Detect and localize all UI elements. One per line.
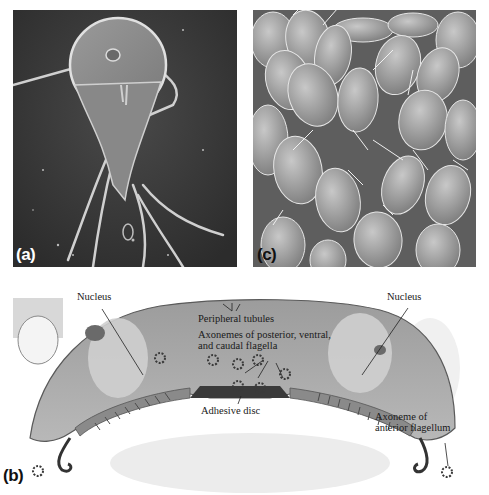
label-axoneme-anterior-1: Axoneme of: [375, 411, 427, 422]
label-axonemes-posterior: Axonemes of posterior, ventral,: [198, 329, 331, 340]
panel-label-a: (a): [16, 245, 35, 265]
panel-label-b: (b): [3, 466, 23, 486]
label-axoneme-anterior-2: anterior flagellum: [375, 422, 451, 433]
cross-section-tem-image: [0, 278, 489, 495]
label-nucleus-right: Nucleus: [387, 291, 421, 302]
panel-b-micrograph: Nucleus Nucleus Peripheral tubules Axone…: [0, 278, 489, 495]
panel-c-micrograph: (c): [253, 10, 476, 267]
panel-label-c: (c): [257, 245, 276, 265]
intestinal-surface-sem-image: [253, 10, 476, 267]
panel-a-micrograph: (a): [13, 10, 237, 267]
label-adhesive-disc: Adhesive disc: [201, 405, 260, 416]
label-peripheral-tubules: Peripheral tubules: [198, 313, 274, 324]
label-axonemes-caudal: and caudal flagella: [198, 340, 277, 351]
label-nucleus-left: Nucleus: [77, 291, 111, 302]
trophozoite-sem-image: [13, 10, 237, 267]
